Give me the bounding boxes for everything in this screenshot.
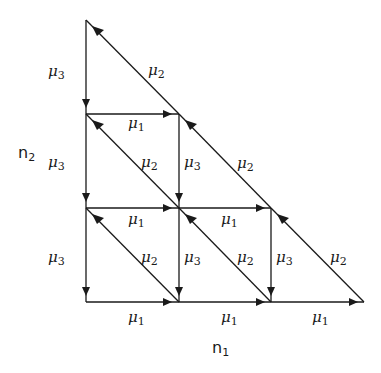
axis-label-base: n	[212, 338, 222, 357]
arrow-down-icon	[82, 287, 90, 296]
arrow-right-icon	[163, 204, 172, 212]
arrow-down-icon	[267, 287, 275, 296]
arrow-down-icon	[82, 99, 90, 108]
edge-label-mu2: μ2	[237, 250, 254, 267]
arrow-right-icon	[256, 204, 265, 212]
arrow-up-left-icon	[185, 120, 197, 130]
edge-label-mu1: μ1	[221, 310, 238, 327]
edge-label-mu1: μ1	[221, 212, 238, 229]
edge-label-mu3: μ3	[48, 64, 65, 81]
arrow-down-icon	[82, 193, 90, 202]
edge-label-mu3: μ3	[184, 155, 201, 172]
arrow-up-left-icon	[92, 26, 104, 36]
edge-label-mu3: μ3	[184, 250, 201, 267]
edge-label-mu2: μ2	[330, 250, 347, 267]
edge-mu2	[86, 20, 179, 114]
edge-label-mu2: μ2	[148, 63, 165, 80]
axis-label-base: n	[18, 143, 28, 162]
arrow-right-icon	[256, 298, 265, 306]
axis-label-n1: n1	[212, 340, 229, 358]
edge-label-mu3: μ3	[276, 250, 293, 267]
axis-label-sub: 1	[222, 346, 229, 359]
arrow-right-icon	[163, 110, 172, 118]
arrow-up-left-icon	[277, 214, 289, 224]
edge-label-mu2: μ2	[141, 155, 158, 172]
axis-label-sub: 2	[28, 151, 35, 164]
arrow-down-icon	[175, 193, 183, 202]
edge-label-mu2: μ2	[141, 250, 158, 267]
edge-label-mu2: μ2	[237, 156, 254, 173]
arrow-down-icon	[175, 287, 183, 296]
edge-label-mu3: μ3	[48, 155, 65, 172]
arrow-right-icon	[349, 298, 358, 306]
edge-label-mu1: μ1	[128, 310, 145, 327]
arrow-right-icon	[163, 298, 172, 306]
edge-label-mu1: μ1	[128, 212, 145, 229]
axis-label-n2: n2	[18, 145, 35, 163]
arrow-up-left-icon	[92, 120, 104, 130]
edge-label-mu3: μ3	[48, 250, 65, 267]
arrow-up-left-icon	[92, 214, 104, 224]
edge-label-mu1: μ1	[128, 116, 145, 133]
arrow-up-left-icon	[185, 214, 197, 224]
edge-label-mu1: μ1	[312, 310, 329, 327]
